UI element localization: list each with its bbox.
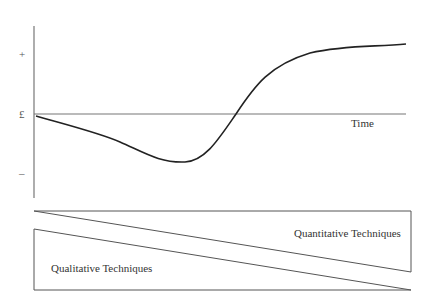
y-axis-label-positive: + xyxy=(19,49,25,60)
qualitative-techniques-label: Qualitative Techniques xyxy=(51,263,152,274)
quantitative-techniques-label: Quantitative Techniques xyxy=(294,228,401,239)
j-curve xyxy=(36,44,406,162)
y-axis-label-zero: £ xyxy=(19,109,25,120)
y-axis-label-negative: – xyxy=(19,168,25,179)
x-axis-label-time: Time xyxy=(351,118,374,129)
diagram-canvas xyxy=(0,0,430,300)
